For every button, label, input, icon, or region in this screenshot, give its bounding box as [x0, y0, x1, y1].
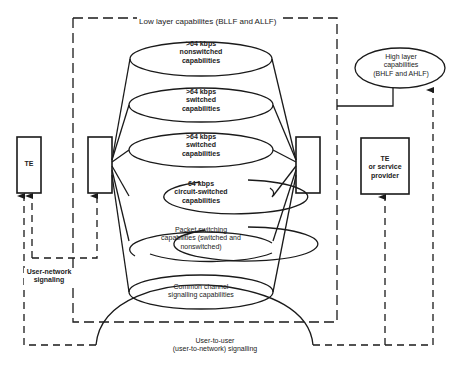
cap0-line2: nonswitched [151, 48, 251, 56]
cap3-line3: capabilities [151, 197, 251, 205]
capability-circuit-switched-64: 64 kbps circuit-switched capabilities [151, 180, 251, 205]
te-left-label: TE [17, 160, 41, 168]
cap4-line1: Packet switching [141, 226, 261, 234]
capability-common-channel: Common channel signalling capabilities [141, 283, 261, 300]
cap3-line1: 64 kbps [151, 180, 251, 188]
cap5-line2: signalling capabilities [141, 291, 261, 299]
user-to-user-line1: User-to-user [150, 337, 280, 345]
cap4-line2: capabilities (switched and [141, 234, 261, 242]
user-to-user-signalling-label: User-to-user (user-to-network) signallin… [150, 337, 280, 354]
cap4-line3: nonswitched) [141, 243, 261, 251]
te-right-line2: or service [359, 163, 411, 171]
low-layer-label: Low layer capabilites (BLLF and ALLF) [137, 17, 278, 27]
high-layer-line1: High layer [357, 53, 445, 61]
cap3-line2: circuit-switched [151, 188, 251, 196]
right-interface-box [296, 137, 320, 193]
left-interface-box [88, 137, 112, 193]
cap2-line1: >64 kbps [151, 133, 251, 141]
high-layer-connector [337, 88, 393, 106]
high-layer-line3: (BHLF and AHLF) [357, 70, 445, 78]
isdn-capabilities-diagram: Low layer capabilites (BLLF and ALLF) Hi… [0, 0, 455, 372]
cap2-line3: capabilities [151, 150, 251, 158]
user-to-user-line2: (user-to-network) signalling [150, 345, 280, 353]
cap1-line2: switched [151, 96, 251, 104]
capability-packet-switching: Packet switching capabilities (switched … [141, 226, 261, 251]
cap5-line1: Common channel [141, 283, 261, 291]
capability-nonswitched-64plus: >64 kbps nonswitched capabilities [151, 40, 251, 65]
te-right-label: TE or service provider [359, 155, 411, 180]
te-right-line3: provider [359, 172, 411, 180]
cap0-line1: >64 kbps [151, 40, 251, 48]
high-layer-line2: capabilities [357, 61, 445, 69]
user-network-line1: User-network [24, 268, 74, 276]
cap0-line3: capabilities [151, 57, 251, 65]
capability-switched-64plus-b: >64 kbps switched capabilities [151, 133, 251, 158]
cap1-line3: capabilities [151, 105, 251, 113]
te-right-line1: TE [359, 155, 411, 163]
user-network-line2: signaling [24, 276, 74, 284]
capability-switched-64plus-a: >64 kbps switched capabilities [151, 88, 251, 113]
high-layer-label: High layer capabilities (BHLF and AHLF) [357, 53, 445, 78]
cap2-line2: switched [151, 141, 251, 149]
cap1-line1: >64 kbps [151, 88, 251, 96]
user-network-signaling-label: User-network signaling [24, 268, 74, 285]
